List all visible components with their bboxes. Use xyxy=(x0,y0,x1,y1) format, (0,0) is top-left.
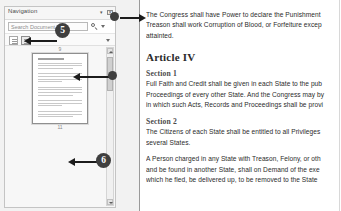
document-paragraph-line: attainted. xyxy=(146,31,341,41)
document-paragraph-line: The Citizens of each State shall be enti… xyxy=(146,127,341,137)
thumb-text-line xyxy=(38,63,82,64)
thumb-text-line xyxy=(38,111,82,112)
document-paragraph-line: A Person charged in any State with Treas… xyxy=(146,154,341,164)
thumb-text-line xyxy=(38,92,82,93)
arrow-head-icon xyxy=(68,158,75,166)
thumb-heading-line xyxy=(38,58,64,60)
document-body: The Congress shall have Power to declare… xyxy=(146,10,341,185)
search-options-chevron-down-icon[interactable] xyxy=(101,25,105,28)
chevron-down-icon: ▾ xyxy=(99,10,103,14)
document-paragraph-line: Treason shall work Corruption of Blood, … xyxy=(146,20,341,30)
thumb-text-line xyxy=(38,81,62,82)
tab-line xyxy=(12,43,17,44)
tab-line xyxy=(12,41,17,42)
thumb-text-line xyxy=(38,65,82,66)
arrow-head-icon xyxy=(139,14,146,22)
thumbnail-page-number: 11 xyxy=(5,124,115,131)
thumb-text-line xyxy=(38,89,82,90)
thumb-text-line xyxy=(38,68,73,69)
search-input-placeholder: Search Document xyxy=(11,23,55,32)
arrow-shaft xyxy=(30,40,57,42)
spacer xyxy=(146,41,341,50)
document-heading-section-2: Section 2 xyxy=(146,116,341,127)
thumb-text-line xyxy=(38,95,73,96)
tabs-overflow-chevron-down-icon[interactable] xyxy=(106,39,110,42)
arrow-shaft xyxy=(120,17,141,19)
document-paragraph-line: The Congress shall have Power to declare… xyxy=(146,10,341,20)
scroll-up-chevron-up-icon[interactable] xyxy=(107,48,113,54)
annotation-dot xyxy=(108,71,117,80)
navigation-pane-title: Navigation xyxy=(8,8,37,14)
thumb-text-line xyxy=(38,114,82,115)
search-input[interactable]: Search Document xyxy=(8,22,88,31)
thumbnail-page-number: 9 xyxy=(5,46,115,53)
pane-options-button[interactable]: ▾ xyxy=(98,9,104,15)
document-paragraph-line: Proceedings of every other State. And th… xyxy=(146,90,341,100)
arrow-shaft xyxy=(74,161,98,163)
document-heading-article-iv: Article IV xyxy=(146,50,341,64)
page-thumbnail-list[interactable]: 9 xyxy=(5,45,115,207)
search-icon[interactable] xyxy=(91,23,98,30)
thumb-text-line xyxy=(38,103,82,104)
thumb-text-line xyxy=(38,100,82,101)
document-heading-section-1: Section 1 xyxy=(146,68,341,79)
annotation-badge-5: 5 xyxy=(55,23,70,38)
document-paragraph-line: and be found in another State, shall on … xyxy=(146,165,341,175)
annotation-dot xyxy=(110,12,119,21)
thumb-text-line xyxy=(38,87,82,88)
thumb-text-line xyxy=(38,105,62,106)
scroll-down-chevron-down-icon[interactable] xyxy=(107,199,113,205)
arrow-head-icon xyxy=(24,37,31,45)
arrow-head-icon xyxy=(73,73,80,81)
document-paragraph-line: several States. xyxy=(146,138,341,148)
document-page[interactable]: The Congress shall have Power to declare… xyxy=(139,0,341,211)
document-paragraph-line: Full Faith and Credit shall be given in … xyxy=(146,79,341,89)
annotation-badge-6: 6 xyxy=(96,153,111,168)
thumb-text-line xyxy=(38,116,73,117)
headings-tab[interactable] xyxy=(9,36,18,45)
search-icon-handle xyxy=(94,27,97,30)
screen-root: Navigation ▾ ✕ Search Document xyxy=(0,0,341,211)
tab-line xyxy=(12,39,17,40)
navigation-pane-header: Navigation ▾ ✕ xyxy=(5,7,115,20)
document-paragraph-line: which he fled, be delivered up, to be re… xyxy=(146,175,341,185)
document-paragraph-line: in which such Acts, Records and Proceedi… xyxy=(146,100,341,110)
page-thumbnail[interactable] xyxy=(32,53,88,124)
